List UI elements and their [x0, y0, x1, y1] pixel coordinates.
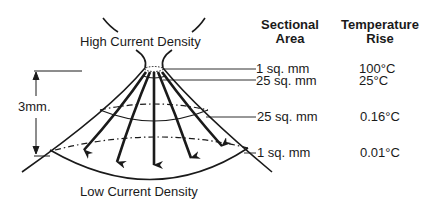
temperature-rise-header: Temperature Rise [335, 18, 425, 46]
outer-boundaries [22, 68, 272, 180]
upper-electrode-outline [103, 18, 205, 32]
area-row-4: 1 sq. mm [257, 146, 310, 160]
low-current-density-label: Low Current Density [80, 185, 198, 199]
temp-row-3: 0.16°C [360, 110, 400, 124]
sectional-area-header: Sectional Area [255, 18, 325, 46]
current-flow-arrows [84, 72, 222, 165]
leader-lines [163, 69, 256, 153]
temp-row-4: 0.01°C [360, 146, 400, 160]
temp-row-2: 25°C [359, 74, 388, 88]
high-current-density-label: High Current Density [80, 35, 201, 49]
area-row-3: 25 sq. mm [257, 110, 318, 124]
area-row-2: 25 sq. mm [256, 74, 317, 88]
dimension-label: 3mm. [18, 100, 51, 114]
